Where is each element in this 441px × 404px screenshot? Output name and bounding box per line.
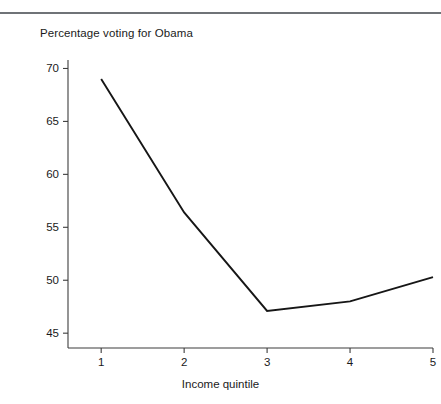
x-tick-label: 5	[430, 356, 436, 368]
y-axis-tick-labels: 455055606570	[46, 62, 59, 339]
line-chart-plot: 455055606570 12345	[0, 0, 441, 404]
x-tick-label: 3	[264, 356, 270, 368]
y-tick-label: 60	[46, 168, 59, 180]
y-tick-label: 55	[46, 221, 59, 233]
x-tick-label: 1	[98, 356, 104, 368]
chart-figure: Percentage voting for Obama 455055606570…	[0, 0, 441, 404]
chart-axes	[68, 60, 433, 348]
y-tick-label: 65	[46, 115, 59, 127]
x-axis-tick-labels: 12345	[98, 356, 436, 368]
data-series-group	[101, 79, 433, 311]
x-axis-title: Income quintile	[0, 378, 441, 390]
y-tick-label: 50	[46, 274, 59, 286]
x-tick-label: 4	[347, 356, 354, 368]
chart-tick-marks	[63, 68, 433, 353]
y-tick-label: 70	[46, 62, 59, 74]
y-tick-label: 45	[46, 327, 59, 339]
data-series-line	[101, 79, 433, 311]
x-tick-label: 2	[181, 356, 187, 368]
